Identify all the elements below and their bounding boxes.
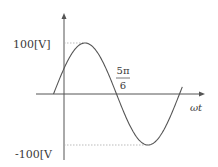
y-min-label: -100[V (15, 148, 53, 161)
y-max-label: 100[V] (13, 38, 51, 51)
sine-wave-chart: 100[V] -100[V 5π 6 ωt (0, 0, 218, 167)
zero-crossing-numerator: 5π (117, 65, 130, 76)
zero-crossing-denominator: 6 (120, 80, 126, 91)
x-axis-arrow-icon (199, 92, 205, 97)
x-axis-label: ωt (190, 102, 203, 113)
y-axis-arrow-icon (62, 13, 67, 19)
